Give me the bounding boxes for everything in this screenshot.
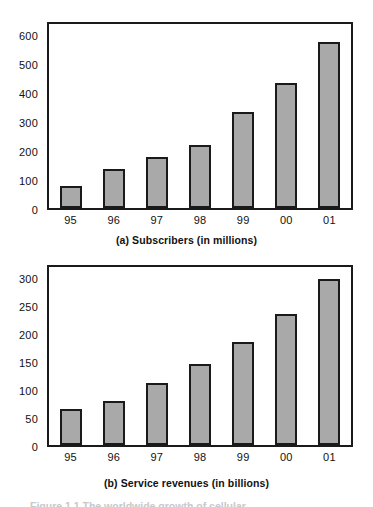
chart-panel-subscribers: 0100200300400500600 95969798990001 (a) S…: [0, 6, 373, 248]
bar-97: [146, 157, 168, 208]
y-tick-label: 50: [25, 413, 38, 425]
y-tick-label: 400: [19, 88, 38, 100]
bar-96: [103, 401, 125, 445]
bar-slot: [308, 267, 351, 445]
y-tick-label: 100: [19, 385, 38, 397]
y-tick-label: 200: [19, 146, 38, 158]
bar-series-a: [49, 24, 351, 208]
bar-slot: [222, 267, 265, 445]
bar-97: [146, 383, 168, 445]
bar-series-b: [49, 267, 351, 445]
figure-bottom-caption: Figure 1.1 The worldwide growth of cellu…: [30, 499, 350, 507]
bar-98: [189, 364, 211, 445]
y-tick-label: 100: [19, 175, 38, 187]
chart-caption-b: (b) Service revenues (in billions): [0, 477, 373, 489]
x-tick-label: 97: [135, 451, 178, 463]
y-tick-label: 250: [19, 301, 38, 313]
x-tick-label: 98: [178, 451, 221, 463]
x-axis-ticks-a: 95969798990001: [49, 214, 351, 226]
bar-slot: [135, 24, 178, 208]
x-tick-label: 96: [92, 451, 135, 463]
bar-slot: [135, 267, 178, 445]
x-tick-label: 97: [135, 214, 178, 226]
y-tick-label: 500: [19, 59, 38, 71]
x-tick-label: 95: [49, 451, 92, 463]
figure-container: 0100200300400500600 95969798990001 (a) S…: [0, 0, 373, 507]
x-tick-label: 00: [265, 214, 308, 226]
y-tick-label: 0: [32, 204, 38, 216]
bar-95: [60, 409, 82, 445]
chart-caption-a: (a) Subscribers (in millions): [0, 234, 373, 246]
y-tick-label: 200: [19, 329, 38, 341]
y-axis-ticks-b: 050100150200250300: [0, 265, 42, 447]
bar-99: [232, 342, 254, 445]
x-tick-label: 01: [308, 451, 351, 463]
x-tick-label: 00: [265, 451, 308, 463]
bar-slot: [92, 267, 135, 445]
bar-slot: [49, 267, 92, 445]
bar-00: [275, 83, 297, 208]
bar-slot: [92, 24, 135, 208]
x-axis-ticks-b: 95969798990001: [49, 451, 351, 463]
x-tick-label: 95: [49, 214, 92, 226]
bar-slot: [49, 24, 92, 208]
bar-01: [318, 279, 340, 445]
bar-00: [275, 314, 297, 445]
x-tick-label: 01: [308, 214, 351, 226]
chart-panel-service-revenues: 050100150200250300 95969798990001: [0, 255, 373, 501]
bar-slot: [265, 267, 308, 445]
bar-96: [103, 169, 125, 208]
bar-99: [232, 112, 254, 208]
bar-slot: [178, 24, 221, 208]
bar-slot: [265, 24, 308, 208]
y-tick-label: 600: [19, 30, 38, 42]
y-tick-label: 300: [19, 273, 38, 285]
plot-area-a: [47, 22, 353, 210]
y-tick-label: 300: [19, 117, 38, 129]
plot-area-b: [47, 265, 353, 447]
bar-slot: [308, 24, 351, 208]
y-tick-label: 0: [32, 441, 38, 453]
bar-slot: [222, 24, 265, 208]
x-tick-label: 98: [178, 214, 221, 226]
x-tick-label: 99: [222, 214, 265, 226]
y-tick-label: 150: [19, 357, 38, 369]
y-axis-ticks-a: 0100200300400500600: [0, 22, 42, 210]
bar-01: [318, 42, 340, 208]
bar-slot: [178, 267, 221, 445]
x-tick-label: 96: [92, 214, 135, 226]
bar-95: [60, 186, 82, 208]
bar-98: [189, 145, 211, 208]
x-tick-label: 99: [222, 451, 265, 463]
